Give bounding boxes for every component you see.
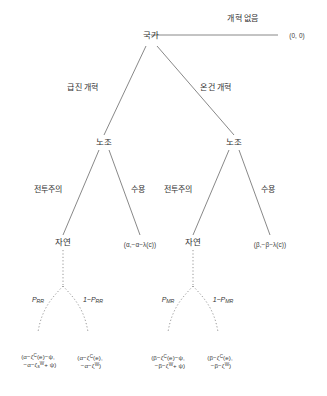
edge-prob-mr-high — [168, 286, 193, 332]
node-nature-left: 자연 — [55, 237, 71, 248]
payoff-line-1: (α−ζC(e), — [77, 354, 103, 362]
payoff-line-2: −β−ζW+ ψ) — [151, 362, 186, 370]
node-union-right: 노조 — [226, 137, 242, 148]
payoff-line-2: −α−ζsW+ ψ) — [20, 362, 57, 371]
edge-label-radical-reform: 급진 개혁 — [67, 83, 98, 94]
payoff-rr-success: (α−ζC(e)−ψ, −α−ζsW+ ψ) — [20, 353, 57, 371]
prob-label-mr-low: 1−PMR — [213, 295, 234, 305]
edge-label-moderate-reform: 온건 개혁 — [200, 83, 231, 94]
tree-edges — [0, 0, 327, 396]
edge-label-no-reform: 개혁 없음 — [227, 14, 258, 25]
edge-label-accommodation-right: 수용 — [261, 185, 275, 196]
prob-label-mr-high: PMR — [162, 295, 175, 305]
edge-radical-reform — [104, 46, 146, 135]
prob-label-rr-high: PRR — [32, 295, 44, 305]
payoff-mr-success: (β−ζC(e)−ψ, −β−ζW+ ψ) — [151, 354, 186, 371]
payoff-accommodation-left: (α,−α−λ(c)) — [124, 241, 157, 250]
node-nature-right: 자연 — [185, 237, 201, 248]
game-tree-diagram: 국가 노조 노조 자연 자연 개혁 없음 급진 개혁 온건 개혁 전투주의 수용… — [0, 0, 327, 396]
edge-label-accommodation-left: 수용 — [131, 185, 145, 196]
payoff-line-2: −α−ζW) — [77, 362, 103, 370]
payoff-accommodation-right: (β,−β−λ(c)) — [254, 241, 287, 250]
payoff-line-2: −β−ζW) — [207, 362, 232, 370]
edge-militancy-left — [63, 150, 99, 235]
payoff-mr-fail: (β−ζC(e), −β−ζW) — [207, 354, 232, 371]
edge-prob-rr-low — [63, 286, 88, 332]
edge-label-militancy-right: 전투주의 — [164, 185, 193, 196]
payoff-line-1: (α−ζC(e)−ψ, — [20, 353, 57, 361]
payoff-line-1: (β−ζC(e), — [207, 354, 232, 362]
prob-sub: RR — [37, 298, 45, 304]
prob-label-rr-low: 1−PRR — [83, 295, 103, 305]
node-state: 국가 — [143, 30, 159, 41]
edge-label-militancy-left: 전투주의 — [34, 185, 63, 196]
prob-sub: RR — [96, 298, 104, 304]
prob-sub: MR — [166, 298, 174, 304]
payoff-line-1: (β−ζC(e)−ψ, — [151, 354, 186, 362]
prob-base: 1−P — [213, 296, 226, 303]
payoff-rr-fail: (α−ζC(e), −α−ζW) — [77, 354, 103, 371]
payoff-no-reform: (0, 0) — [289, 32, 305, 41]
node-union-left: 노조 — [96, 137, 112, 148]
edge-militancy-right — [193, 150, 229, 235]
prob-base: 1−P — [83, 296, 96, 303]
edge-prob-rr-high — [38, 286, 63, 332]
edge-prob-mr-low — [193, 286, 218, 332]
prob-sub: MR — [225, 298, 233, 304]
